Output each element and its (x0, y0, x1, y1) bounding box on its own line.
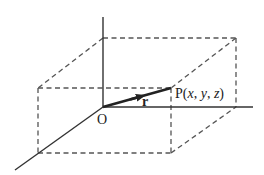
x-axis (15, 107, 103, 170)
point-label-sep2: , (207, 86, 214, 101)
diagram-svg: O r P(x, y, z) (0, 0, 264, 175)
box-edge-bottom-right (171, 107, 236, 153)
box-edge-top-right (171, 38, 236, 88)
position-vector-diagram: O r P(x, y, z) (0, 0, 264, 175)
position-vector-r (103, 88, 171, 107)
point-label: P(x, y, z) (175, 86, 224, 102)
point-label-sep1: , (194, 86, 201, 101)
vector-label: r (142, 94, 148, 109)
origin-label: O (97, 112, 107, 127)
point-label-prefix: P( (175, 86, 188, 102)
vector-r-arrow-icon (130, 96, 141, 99)
box-edge-top-left (38, 38, 103, 88)
point-label-suffix: ) (219, 86, 224, 102)
